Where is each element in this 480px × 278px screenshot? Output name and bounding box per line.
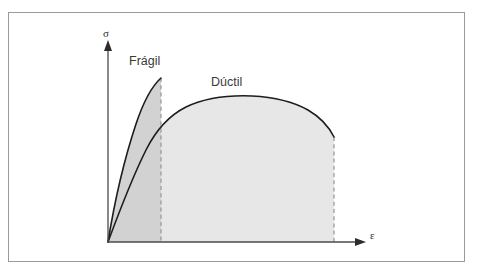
- x-axis-label-epsilon: ε: [370, 230, 375, 241]
- stress-strain-figure: σ ε Frágil Dúctil: [0, 0, 480, 278]
- y-axis-label-sigma: σ: [103, 28, 109, 39]
- brittle-area-fill: [108, 78, 161, 242]
- y-axis-arrowhead: [104, 40, 112, 51]
- stress-strain-chart: [0, 0, 480, 278]
- x-axis-arrowhead: [355, 238, 366, 246]
- curve-label-ductil: Dúctil: [211, 76, 242, 89]
- curve-label-fragil: Frágil: [129, 55, 160, 68]
